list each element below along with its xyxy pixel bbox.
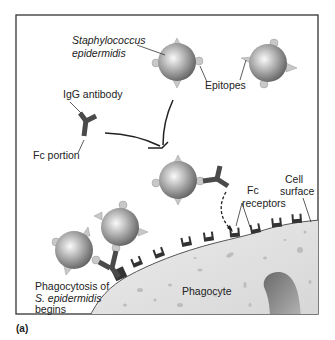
label-staphylococcus: Staphylococcus: [72, 34, 146, 46]
label-phagocyte: Phagocyte: [182, 285, 232, 297]
label-fc-portion: Fc portion: [33, 149, 80, 161]
label-cell: Cell: [285, 173, 303, 185]
label-fc: Fc: [247, 184, 259, 196]
panel-label: (a): [16, 323, 28, 334]
opsonization-diagram: Staphylococcus epidermidis Epitopes IgG …: [0, 0, 335, 340]
label-igg-antibody: IgG antibody: [63, 88, 123, 100]
label-begins: begins: [35, 303, 66, 315]
label-receptors: receptors: [242, 197, 286, 209]
label-phagocytosis-of: Phagocytosis of: [35, 280, 109, 292]
label-epidermidis: epidermidis: [72, 47, 126, 59]
label-epitopes: Epitopes: [205, 79, 246, 91]
label-surface: surface: [280, 185, 315, 197]
